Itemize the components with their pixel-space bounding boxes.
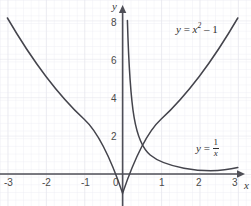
x-axis-name: x	[244, 180, 249, 191]
graph-figure: -3 -2 -1 0 1 2 3 2 4 6 8 x y y = x2 – 1 …	[0, 0, 251, 206]
hyperbola-fraction: 1x	[213, 138, 220, 158]
x-tick-label-3: 3	[232, 178, 238, 188]
x-tick-label-2: 2	[196, 178, 202, 188]
hyperbola-equation-label: y = 1x	[196, 139, 219, 159]
x-tick-label--2: -2	[42, 178, 51, 188]
y-tick-label-6: 6	[111, 56, 117, 66]
x-tick-label--1: -1	[81, 178, 90, 188]
hyperbola-numerator: 1	[213, 138, 220, 147]
y-axis-name: y	[112, 1, 117, 12]
parabola-constant: 1	[212, 23, 218, 35]
hyperbola-denominator: x	[213, 149, 220, 158]
x-tick-label-1: 1	[159, 178, 165, 188]
x-tick-label--3: -3	[4, 178, 13, 188]
y-tick-label-4: 4	[111, 94, 117, 104]
parabola-equation-label: y = x2 – 1	[176, 22, 218, 35]
y-tick-label-2: 2	[111, 132, 117, 142]
y-tick-label-8: 8	[111, 18, 117, 28]
x-tick-label-0: 0	[113, 178, 119, 188]
